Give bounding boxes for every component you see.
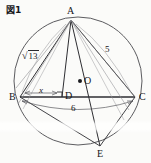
radical-sign: √ [22, 50, 28, 61]
center-dot-o [78, 79, 82, 83]
point-label-o: O [84, 76, 91, 86]
right-angle-marker-d [57, 92, 62, 97]
point-label-a: A [67, 6, 74, 16]
figure-canvas [0, 0, 151, 163]
measurement-label-ac: 5 [105, 45, 110, 54]
measurement-label-bd: x [39, 86, 43, 95]
point-label-c: C [139, 92, 146, 102]
segment-be [20, 97, 100, 146]
segment-ce [100, 97, 135, 146]
construction-line-3 [71, 20, 135, 97]
point-label-b: B [9, 92, 16, 102]
measurement-label-bc: 6 [71, 104, 76, 113]
measurement-label-ab: √13 [22, 46, 39, 62]
point-label-d: D [65, 91, 72, 101]
geometry-figure: 図1 [0, 0, 151, 163]
point-label-e: E [97, 149, 103, 159]
construction-line-6 [23, 20, 71, 109]
figure-caption: 図1 [6, 3, 21, 16]
construction-line-5 [71, 20, 124, 120]
radicand-value: 13 [28, 50, 39, 61]
